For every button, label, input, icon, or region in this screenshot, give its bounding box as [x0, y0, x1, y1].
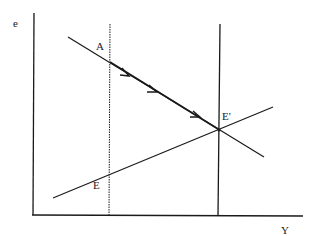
x-axis — [32, 215, 303, 216]
y-axis — [33, 13, 34, 215]
y-axis-label: e — [13, 18, 18, 29]
solid-vertical-line — [218, 24, 220, 216]
diagram-canvas — [0, 0, 313, 236]
point-label-e-prime: E' — [222, 111, 231, 122]
point-label-a: A — [96, 41, 104, 52]
dotted-vertical-line — [109, 24, 110, 215]
x-axis-label: Y — [281, 225, 289, 236]
point-label-e: E — [93, 180, 100, 191]
intersection-point-e-prime — [218, 129, 221, 132]
upward-sloping-line — [53, 107, 273, 198]
